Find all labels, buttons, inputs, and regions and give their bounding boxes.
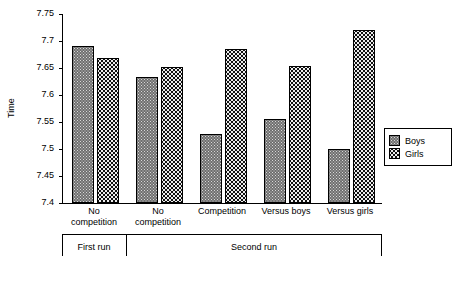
legend-item-boys: Boys xyxy=(389,135,447,146)
y-tick-label: 7.6 xyxy=(22,89,54,99)
bar-group xyxy=(191,14,255,203)
legend-label: Boys xyxy=(405,136,425,146)
bar-group xyxy=(319,14,383,203)
legend-item-girls: Girls xyxy=(389,148,447,159)
bar-group xyxy=(127,14,191,203)
bar-boys xyxy=(264,119,286,203)
y-tick-label: 7.7 xyxy=(22,35,54,45)
y-tick-label: 7.4 xyxy=(22,197,54,207)
category-label: Versus girls xyxy=(318,206,382,217)
bar-girls xyxy=(353,30,375,203)
bar-girls xyxy=(97,58,119,203)
legend-swatch-girls xyxy=(389,148,400,159)
y-tick-label: 7.75 xyxy=(22,8,54,18)
category-label: Versus boys xyxy=(254,206,318,217)
category-label: Nocompetition xyxy=(126,206,190,228)
y-tick-label: 7.5 xyxy=(22,143,54,153)
plot-area xyxy=(62,14,382,204)
group-axis: First runSecond run xyxy=(62,234,382,262)
bar-girls xyxy=(289,66,311,203)
category-label: Competition xyxy=(190,206,254,217)
legend-swatch-boys xyxy=(389,135,400,146)
category-axis: NocompetitionNocompetitionCompetitionVer… xyxy=(62,206,382,236)
bar-girls xyxy=(225,49,247,203)
y-tick-label: 7.55 xyxy=(22,116,54,126)
bar-boys xyxy=(136,77,158,203)
legend-label: Girls xyxy=(405,149,424,159)
category-label: Nocompetition xyxy=(62,206,126,228)
y-tick-label: 7.45 xyxy=(22,170,54,180)
bar-boys xyxy=(200,134,222,203)
group-label: First run xyxy=(62,242,126,252)
group-axis-line xyxy=(62,234,382,235)
y-tick-mark xyxy=(59,203,63,204)
bar-boys xyxy=(328,149,350,203)
y-tick-label: 7.65 xyxy=(22,62,54,72)
group-label: Second run xyxy=(126,242,382,252)
y-axis-label: Time xyxy=(6,98,16,118)
bar-group xyxy=(63,14,127,203)
bar-girls xyxy=(161,67,183,203)
bar-chart: Time 7.47.457.57.557.67.657.77.75 Nocomp… xyxy=(0,0,459,287)
bar-group xyxy=(255,14,319,203)
bar-boys xyxy=(72,46,94,203)
legend: BoysGirls xyxy=(384,128,452,166)
